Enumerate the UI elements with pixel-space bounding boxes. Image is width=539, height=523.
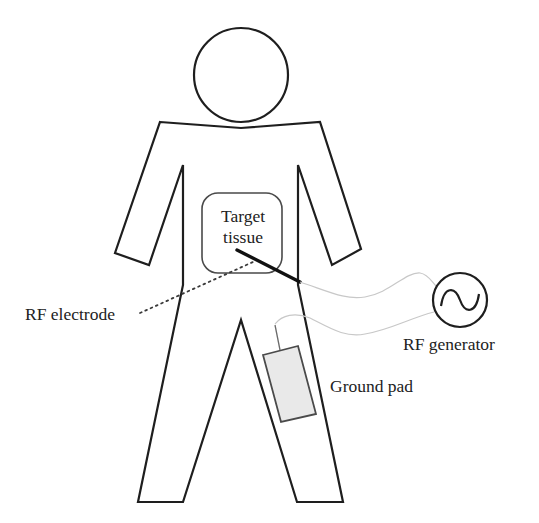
ground-pad — [263, 346, 316, 422]
body-head — [194, 28, 288, 122]
target-tissue-label-line1: Target — [221, 206, 265, 226]
rf-electrode-label: RF electrode — [25, 304, 115, 324]
ac-sine-wave-icon — [441, 290, 479, 310]
rf-electrode-leader-line — [140, 262, 253, 313]
ground-pad-label: Ground pad — [330, 376, 413, 396]
rf-generator — [433, 273, 487, 327]
ground-pad-wire — [275, 312, 434, 335]
target-tissue-label-line2: tissue — [223, 227, 263, 247]
body-outline — [115, 122, 361, 502]
rf-ablation-diagram: Target tissue RF electrode RF generator … — [0, 0, 539, 523]
ground-pad-lead — [275, 325, 280, 350]
rf-electrode-needle — [237, 250, 300, 282]
electrode-wire — [300, 273, 436, 298]
rf-generator-label: RF generator — [403, 334, 495, 354]
